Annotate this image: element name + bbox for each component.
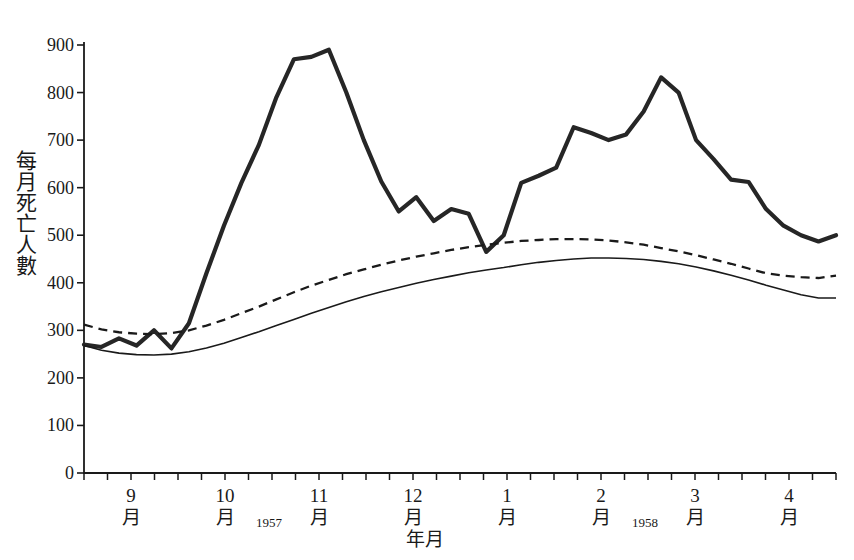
chart-canvas xyxy=(0,0,854,560)
x-tick-label: 1月 xyxy=(487,485,527,529)
y-tick-label: 500 xyxy=(28,225,74,246)
chart-figure: 每月死亡人數 年月 0100200300400500600700800900 9… xyxy=(0,0,854,560)
x-tick-month-number: 3 xyxy=(675,485,715,507)
x-tick-label: 9月 xyxy=(111,485,151,529)
x-tick-month-number: 10 xyxy=(205,485,245,507)
year-annotation: 1957 xyxy=(256,515,282,531)
y-tick-label: 600 xyxy=(28,178,74,199)
x-tick-month-char: 月 xyxy=(581,507,621,529)
y-tick-label: 100 xyxy=(28,415,74,436)
x-tick-month-number: 11 xyxy=(299,485,339,507)
y-tick-label: 400 xyxy=(28,273,74,294)
axis-lines xyxy=(84,42,836,473)
x-tick-label: 4月 xyxy=(769,485,809,529)
x-tick-month-number: 9 xyxy=(111,485,151,507)
x-tick-month-char: 月 xyxy=(111,507,151,529)
x-tick-month-number: 4 xyxy=(769,485,809,507)
x-tick-label: 3月 xyxy=(675,485,715,529)
y-tick-label: 900 xyxy=(28,35,74,56)
y-tick-label: 300 xyxy=(28,320,74,341)
x-tick-month-number: 2 xyxy=(581,485,621,507)
x-tick-month-char: 月 xyxy=(487,507,527,529)
series-line xyxy=(84,50,836,349)
x-tick-month-char: 月 xyxy=(393,507,433,529)
y-tick-label: 0 xyxy=(28,463,74,484)
x-tick-label: 12月 xyxy=(393,485,433,529)
year-annotation: 1958 xyxy=(632,515,658,531)
x-tick-label: 2月 xyxy=(581,485,621,529)
y-tick-label: 200 xyxy=(28,368,74,389)
chart-axes xyxy=(77,42,836,480)
x-tick-month-char: 月 xyxy=(299,507,339,529)
x-tick-month-char: 月 xyxy=(769,507,809,529)
x-tick-month-char: 月 xyxy=(205,507,245,529)
series-line xyxy=(84,239,836,334)
x-tick-label: 11月 xyxy=(299,485,339,529)
chart-series-layer xyxy=(84,50,836,355)
x-tick-month-number: 1 xyxy=(487,485,527,507)
x-tick-month-char: 月 xyxy=(675,507,715,529)
y-tick-label: 700 xyxy=(28,130,74,151)
y-tick-label: 800 xyxy=(28,83,74,104)
x-tick-label: 10月 xyxy=(205,485,245,529)
x-tick-month-number: 12 xyxy=(393,485,433,507)
